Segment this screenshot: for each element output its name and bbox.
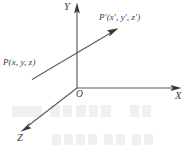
page-bleedthrough-artifacts [12,105,153,145]
axis-y-label: Y [64,2,70,13]
axis-y [74,3,80,89]
axis-z-arrowhead [21,122,32,131]
axis-x [77,85,182,91]
axis-x-label: X [175,91,182,102]
axis-y-arrowhead [74,3,80,14]
vector-p-to-p-prime [32,28,119,79]
diagram-canvas [0,0,189,158]
vector-arrowhead [107,28,119,36]
origin-label: O [76,90,83,100]
point-p-prime-label: P′(x′, y′, z′) [99,13,140,22]
point-p-label: P(x, y, z) [3,58,36,67]
coordinate-diagram-figure: Y X Z O P(x, y, z) P′(x′, y′, z′) [0,0,189,158]
axis-z-label: Z [17,133,23,144]
